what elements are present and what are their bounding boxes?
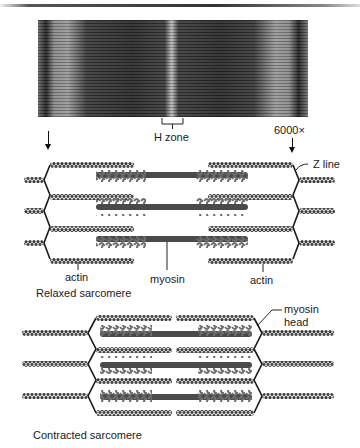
myosin-head-label-line1: myosin (284, 303, 319, 315)
contracted-sarcomere-caption: Contracted sarcomere (33, 429, 142, 441)
myosin-head-label-line2: head (284, 316, 308, 328)
contracted-sarcomere-diagram (0, 0, 360, 448)
